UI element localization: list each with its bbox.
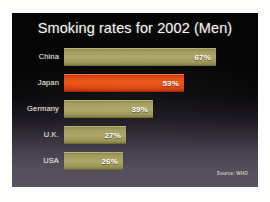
bar-usa[interactable]: 26% (64, 152, 123, 170)
bar-china[interactable]: 67% (64, 48, 216, 66)
bar-value-germany: 39% (131, 101, 148, 119)
bar-row: U.K. 27% (12, 126, 258, 144)
bar-row: USA 26% (12, 152, 258, 170)
bar-japan[interactable]: 53% (64, 74, 184, 92)
bar-track: 39% (64, 100, 239, 118)
bar-value-china: 67% (194, 49, 211, 67)
bar-track: 67% (64, 48, 239, 66)
page-title: Smoking rates for 2002 (Men) (12, 20, 258, 36)
category-label-usa: USA (12, 152, 59, 170)
bar-track: 27% (64, 126, 239, 144)
bar-row: China 67% (12, 48, 258, 66)
presentation-slide: Smoking rates for 2002 (Men) China 67% J… (12, 13, 258, 187)
bar-chart-plot-area: China 67% Japan 53% Germany (12, 48, 258, 178)
bar-uk[interactable]: 27% (64, 126, 126, 144)
bar-row: Japan 53% (12, 74, 258, 92)
bar-germany[interactable]: 39% (64, 100, 153, 118)
bar-track: 53% (64, 74, 239, 92)
bar-track: 26% (64, 152, 239, 170)
category-label-germany: Germany (12, 100, 59, 118)
category-label-uk: U.K. (12, 126, 59, 144)
category-label-japan: Japan (12, 74, 59, 92)
slide-frame: Smoking rates for 2002 (Men) China 67% J… (0, 0, 270, 202)
bar-value-usa: 26% (101, 153, 118, 171)
bar-row: Germany 39% (12, 100, 258, 118)
category-label-china: China (12, 48, 59, 66)
bar-value-uk: 27% (104, 127, 121, 145)
bar-value-japan: 53% (162, 75, 179, 93)
source-note: Source: WHO (217, 171, 248, 176)
